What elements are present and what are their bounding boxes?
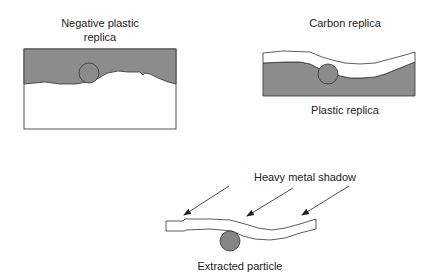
extraction-panel: [166, 186, 349, 251]
shadow-arrow-icon: [247, 188, 293, 216]
shadow-arrow-icon: [184, 186, 229, 215]
plastic-replica-label: Plastic replica: [290, 103, 400, 117]
carbon-replica-panel: [263, 51, 415, 96]
label-line-2: replica: [40, 30, 160, 44]
particle-icon: [79, 63, 99, 83]
negative-replica-panel: [24, 49, 176, 129]
negative-replica-label: Negative plastic replica: [40, 16, 160, 44]
heavy-metal-shadow-label: Heavy metal shadow: [240, 170, 370, 184]
shadowed-carbon-film: [166, 219, 316, 240]
label-line-1: Negative plastic: [40, 16, 160, 30]
extracted-particle-icon: [220, 231, 240, 251]
particle-icon: [318, 64, 338, 84]
extracted-particle-label: Extracted particle: [185, 259, 295, 273]
carbon-replica-label: Carbon replica: [290, 16, 400, 30]
shadow-arrow-icon: [302, 186, 349, 215]
